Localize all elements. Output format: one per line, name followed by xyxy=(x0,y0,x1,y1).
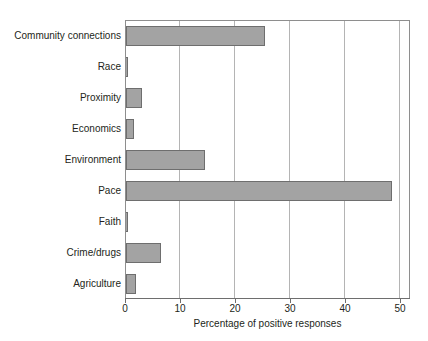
bar-row xyxy=(126,21,409,52)
category-axis: Community connections Race Proximity Eco… xyxy=(0,21,121,298)
bar-community-connections xyxy=(126,26,265,46)
x-tick-label-0: 0 xyxy=(112,303,138,315)
x-tick-label-40: 40 xyxy=(332,303,358,315)
category-label-faith: Faith xyxy=(1,216,121,227)
category-label-race: Race xyxy=(1,61,121,72)
bar-row xyxy=(126,207,409,238)
bar-crime-drugs xyxy=(126,243,161,263)
category-label-crime-drugs: Crime/drugs xyxy=(1,247,121,258)
x-tick-label-30: 30 xyxy=(277,303,303,315)
bar-row xyxy=(126,238,409,269)
bar-row xyxy=(126,114,409,145)
bar-pace xyxy=(126,181,392,201)
bar-row xyxy=(126,83,409,114)
category-label-pace: Pace xyxy=(1,185,121,196)
category-label-agriculture: Agriculture xyxy=(1,278,121,289)
x-axis-title: Percentage of positive responses xyxy=(125,318,410,329)
bar-faith xyxy=(126,212,128,232)
category-label-community-connections: Community connections xyxy=(1,30,121,41)
bar-row xyxy=(126,52,409,83)
x-tick-label-20: 20 xyxy=(222,303,248,315)
x-tick-label-50: 50 xyxy=(387,303,413,315)
bar-proximity xyxy=(126,88,142,108)
bar-row xyxy=(126,176,409,207)
bar-environment xyxy=(126,150,205,170)
x-tick-label-10: 10 xyxy=(167,303,193,315)
bar-chart: Community connections Race Proximity Eco… xyxy=(0,0,428,341)
category-label-economics: Economics xyxy=(1,123,121,134)
bar-agriculture xyxy=(126,274,136,294)
bar-row xyxy=(126,145,409,176)
x-axis-line xyxy=(125,298,410,299)
bar-economics xyxy=(126,119,134,139)
bar-row xyxy=(126,269,409,300)
category-label-proximity: Proximity xyxy=(1,92,121,103)
bar-race xyxy=(126,57,128,77)
category-label-environment: Environment xyxy=(1,154,121,165)
bars-layer xyxy=(126,21,409,298)
